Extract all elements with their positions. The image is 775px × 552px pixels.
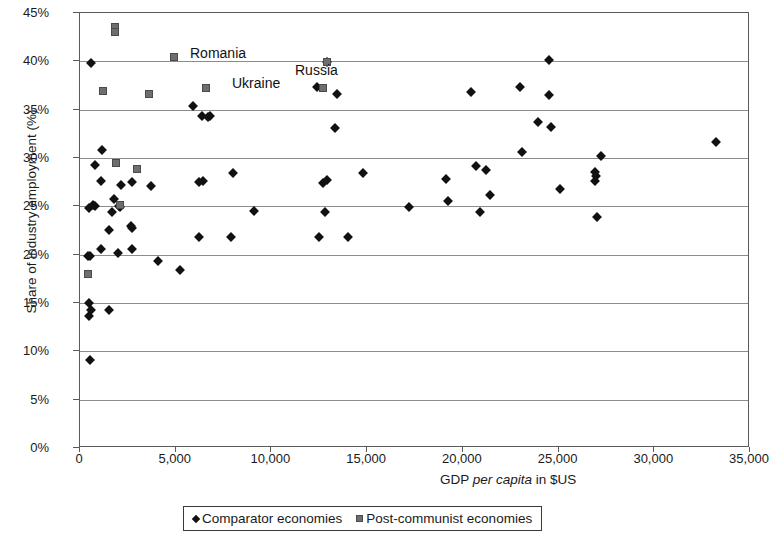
legend-entry: Comparator economies xyxy=(193,511,342,526)
data-point xyxy=(113,248,123,258)
gridline xyxy=(80,158,748,159)
data-point xyxy=(127,244,137,254)
diamond-marker-icon xyxy=(192,514,200,522)
y-tick-label: 5% xyxy=(30,392,49,405)
x-tick-label: 5,000 xyxy=(158,452,191,465)
data-point xyxy=(175,265,185,275)
data-point xyxy=(249,206,259,216)
y-tick-label: 20% xyxy=(23,247,49,260)
data-point xyxy=(332,89,342,99)
data-point xyxy=(112,159,120,167)
legend-entry: Post-communist economies xyxy=(356,511,532,526)
y-tick-label: 0% xyxy=(30,441,49,454)
x-tick-label: 0 xyxy=(75,452,82,465)
point-annotation-russia: Russia xyxy=(295,63,338,77)
x-tick-label: 30,000 xyxy=(633,452,673,465)
data-point xyxy=(107,207,117,217)
data-point xyxy=(194,232,204,242)
legend-label: Post-communist economies xyxy=(366,511,532,526)
point-annotation-ukraine: Ukraine xyxy=(232,76,280,90)
data-point xyxy=(515,82,525,92)
gridline xyxy=(80,400,748,401)
gridline xyxy=(80,255,748,256)
point-annotation-romania: Romania xyxy=(190,46,246,60)
y-tick-label: 15% xyxy=(23,296,49,309)
x-tick-label: 15,000 xyxy=(346,452,386,465)
data-point xyxy=(441,174,451,184)
y-tick-label: 25% xyxy=(23,199,49,212)
data-point xyxy=(404,202,414,212)
x-tick-mark xyxy=(653,447,654,452)
data-point xyxy=(85,355,95,365)
legend-label: Comparator economies xyxy=(202,511,342,526)
y-tick-label: 10% xyxy=(23,344,49,357)
x-tick-label: 25,000 xyxy=(538,452,578,465)
data-point xyxy=(104,305,114,315)
x-tick-label: 10,000 xyxy=(251,452,291,465)
data-point xyxy=(104,225,114,235)
data-point xyxy=(145,90,153,98)
data-point xyxy=(475,207,485,217)
scatter-chart: Share of industry employment (%) 0%5%10%… xyxy=(0,0,775,552)
data-point xyxy=(146,181,156,191)
data-point xyxy=(711,137,721,147)
x-tick-mark xyxy=(79,447,80,452)
data-point xyxy=(111,28,119,36)
data-point xyxy=(544,55,554,65)
data-point xyxy=(154,256,164,266)
data-point xyxy=(471,161,481,171)
data-point xyxy=(170,53,178,61)
data-point xyxy=(443,196,453,206)
data-point xyxy=(90,160,100,170)
data-point xyxy=(87,58,97,68)
x-tick-mark xyxy=(558,447,559,452)
data-point xyxy=(466,87,476,97)
data-point xyxy=(485,190,495,200)
data-point xyxy=(226,232,236,242)
gridline xyxy=(80,110,748,111)
x-tick-mark xyxy=(175,447,176,452)
data-point xyxy=(116,201,124,209)
data-point xyxy=(556,184,566,194)
data-point xyxy=(314,232,324,242)
x-tick-mark xyxy=(749,447,750,452)
data-point xyxy=(533,117,543,127)
data-point xyxy=(84,270,92,278)
square-marker-icon xyxy=(356,515,363,522)
data-point xyxy=(202,84,210,92)
data-point xyxy=(96,244,106,254)
y-tick-label: 45% xyxy=(23,6,49,19)
plot-area: RomaniaUkraineRussia xyxy=(79,12,749,447)
x-tick-label: 35,000 xyxy=(729,452,769,465)
data-point xyxy=(546,122,556,132)
x-axis-title: GDP per capita in $US xyxy=(440,472,576,487)
data-point xyxy=(97,145,107,155)
gridline xyxy=(80,351,748,352)
x-tick-mark xyxy=(270,447,271,452)
y-tick-label: 30% xyxy=(23,151,49,164)
data-point xyxy=(99,87,107,95)
data-point xyxy=(116,180,126,190)
x-tick-label: 20,000 xyxy=(442,452,482,465)
data-point xyxy=(96,176,106,186)
data-point xyxy=(481,165,491,175)
data-point xyxy=(320,207,330,217)
data-point xyxy=(330,123,340,133)
y-tick-label: 40% xyxy=(23,54,49,67)
data-point xyxy=(228,168,238,178)
chart-legend: Comparator economiesPost-communist econo… xyxy=(183,506,542,531)
gridline xyxy=(80,303,748,304)
data-point xyxy=(544,90,554,100)
data-point xyxy=(127,177,137,187)
x-tick-mark xyxy=(366,447,367,452)
x-tick-mark xyxy=(462,447,463,452)
data-point xyxy=(358,168,368,178)
data-point xyxy=(517,147,527,157)
data-point xyxy=(596,151,606,161)
data-point xyxy=(592,212,602,222)
data-point xyxy=(343,232,353,242)
y-tick-label: 35% xyxy=(23,102,49,115)
data-point xyxy=(133,165,141,173)
data-point xyxy=(319,84,327,92)
gridline xyxy=(80,61,748,62)
